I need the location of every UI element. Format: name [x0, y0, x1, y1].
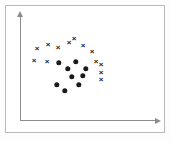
dot-8-marker	[80, 73, 85, 78]
y-axis-line	[20, 16, 21, 121]
dot-1-marker	[56, 60, 61, 65]
cross-13-marker: ×	[72, 35, 77, 43]
dot-2-marker	[73, 59, 78, 64]
cross-4-marker: ×	[67, 39, 72, 47]
dot-4-marker	[83, 66, 88, 71]
y-axis-arrowhead-icon	[17, 11, 23, 17]
cross-7-marker: ×	[32, 57, 37, 65]
x-axis-line	[20, 120, 157, 121]
cross-8-marker: ×	[45, 58, 50, 66]
dot-7-marker	[76, 82, 81, 87]
cross-6-marker: ×	[90, 48, 95, 56]
cross-1-marker: ×	[35, 45, 40, 53]
dot-3-marker	[65, 66, 70, 71]
scatter-plot-figure: ×××××××××××××	[0, 0, 171, 141]
dot-9-marker	[69, 74, 74, 79]
cross-5-marker: ×	[81, 42, 86, 50]
plot-area: ×××××××××××××	[6, 6, 164, 132]
cross-12-marker: ×	[94, 58, 99, 66]
x-axis-arrowhead-icon	[155, 118, 161, 124]
cross-11-marker: ×	[99, 76, 104, 84]
dot-5-marker	[54, 82, 59, 87]
plot-frame-border: ×××××××××××××	[5, 5, 165, 133]
cross-2-marker: ×	[46, 41, 51, 49]
cross-3-marker: ×	[56, 44, 61, 52]
dot-6-marker	[62, 88, 67, 93]
